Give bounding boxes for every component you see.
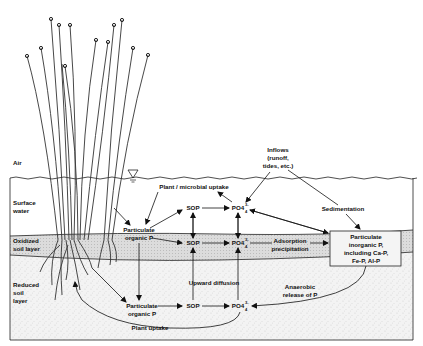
adsorption-label: Adsorption precipitation [271, 237, 308, 252]
svg-text:Anaerobic: Anaerobic [285, 283, 316, 290]
svg-text:Adsorption: Adsorption [274, 237, 307, 244]
po4-water: PO4 3- 4 [232, 202, 249, 214]
svg-text:(runoff,: (runoff, [267, 154, 289, 161]
particulate-organic-p-water: Particulate organic P [123, 226, 155, 241]
svg-text:PO4: PO4 [232, 239, 245, 246]
svg-text:Inflows: Inflows [267, 146, 289, 153]
water-surface-line [10, 177, 417, 179]
svg-text:Particulate: Particulate [350, 233, 382, 240]
zone-label-air: Air [13, 159, 22, 166]
particulate-organic-p-soil: Particulate organic P [126, 302, 158, 317]
svg-text:layer: layer [13, 297, 28, 304]
svg-text:PO4: PO4 [232, 302, 245, 309]
svg-text:Particulate: Particulate [123, 226, 155, 233]
phosphorus-cycle-diagram: Air Surface water Oxidized soil layer Re… [0, 0, 423, 346]
svg-text:PO4: PO4 [232, 204, 245, 211]
svg-text:tides, etc.): tides, etc.) [263, 162, 294, 169]
svg-text:organic P: organic P [128, 310, 156, 317]
zone-label-reduced: Reduced [13, 281, 39, 288]
svg-text:Particulate: Particulate [126, 302, 158, 309]
water-level-icon [128, 170, 138, 182]
svg-text:soil: soil [13, 289, 24, 296]
sop-oxidized: SOP [186, 239, 199, 246]
sop-water: SOP [186, 204, 199, 211]
svg-text:release of P: release of P [283, 291, 318, 298]
anaerobic-release-label: Anaerobic release of P [283, 283, 318, 298]
inflows-label: Inflows (runoff, tides, etc.) [263, 146, 294, 169]
svg-text:soil layer: soil layer [13, 245, 40, 252]
zone-label-oxidized: Oxidized [13, 237, 39, 244]
svg-text:3-: 3- [245, 202, 249, 207]
svg-text:precipitation: precipitation [271, 245, 308, 252]
zone-label-surface-water: Surface [13, 199, 36, 206]
svg-text:water: water [12, 207, 30, 214]
svg-text:organic P: organic P [125, 234, 153, 241]
svg-text:Fe-P, Al-P: Fe-P, Al-P [352, 257, 380, 264]
svg-text:inorganic P,: inorganic P, [349, 241, 384, 248]
svg-text:4: 4 [245, 209, 248, 214]
upward-diffusion-label: Upward diffusion [189, 279, 240, 286]
sedimentation-label: Sedimentation [322, 205, 365, 212]
sop-soil: SOP [186, 302, 199, 309]
svg-text:including Ca-P,: including Ca-P, [344, 249, 389, 256]
particulate-inorganic-p-box: Particulate inorganic P, including Ca-P,… [330, 231, 401, 266]
plant-microbial-uptake-label: Plant / microbial uptake [159, 183, 229, 190]
